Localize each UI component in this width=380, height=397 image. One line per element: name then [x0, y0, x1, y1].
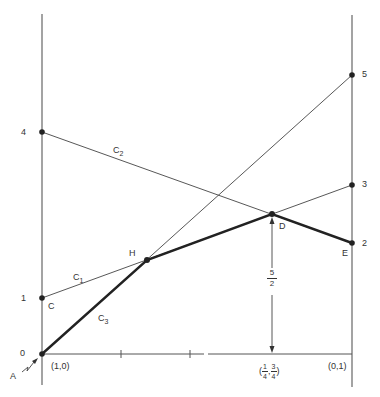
- left-tick-label-1: 1: [21, 294, 26, 303]
- height-annotation-fraction: 5 2: [267, 269, 277, 288]
- point-label-d: D: [279, 222, 286, 231]
- curve-label-c3: C3: [98, 314, 108, 323]
- frac1-num: 1: [263, 363, 267, 370]
- point-right-5: [349, 72, 355, 78]
- point-a: [39, 351, 45, 357]
- left-tick-label-4: 4: [21, 128, 26, 137]
- lower-envelope-path: [42, 214, 352, 354]
- frac2-den: 4: [272, 373, 276, 380]
- curve-label-c3-sub: 3: [105, 318, 109, 325]
- frac1-den: 4: [263, 373, 267, 380]
- curve-label-c3-base: C: [98, 313, 105, 323]
- point-label-e: E: [342, 249, 348, 258]
- point-a-pointer-icon: [22, 362, 34, 372]
- diagram-canvas: [0, 0, 380, 397]
- x-label-mid-close: ): [277, 366, 280, 376]
- point-left-4: [39, 129, 45, 135]
- right-tick-label-3: 3: [362, 180, 367, 189]
- left-tick-label-0: 0: [20, 349, 25, 358]
- curve-label-c1-sub: 1: [80, 277, 84, 284]
- point-label-c: C: [48, 302, 55, 311]
- curve-label-c2: C2: [113, 146, 123, 155]
- point-d: [269, 211, 275, 217]
- curve-label-c2-sub: 2: [120, 150, 124, 157]
- curve-label-c2-base: C: [113, 145, 120, 155]
- x-label-right: (0,1): [328, 362, 347, 371]
- point-e: [349, 240, 355, 246]
- fraction-denominator: 2: [270, 279, 274, 288]
- arrow-head-up-icon: [270, 217, 275, 224]
- x-label-left: (1,0): [51, 362, 70, 371]
- fraction-numerator: 5: [270, 268, 274, 277]
- right-tick-label-5: 5: [362, 70, 367, 79]
- right-tick-label-2: 2: [362, 239, 367, 248]
- point-h: [144, 257, 150, 263]
- frac2-num: 3: [272, 363, 276, 370]
- x-label-mid: ( 1 4 , 3 4 ): [259, 362, 280, 380]
- point-right-3: [349, 182, 355, 188]
- point-label-h: H: [129, 249, 136, 258]
- point-label-a: A: [10, 372, 16, 381]
- curve-label-c1: C1: [73, 273, 83, 282]
- point-c: [39, 295, 45, 301]
- curve-label-c1-base: C: [73, 272, 80, 282]
- arrow-head-down-icon: [270, 346, 275, 353]
